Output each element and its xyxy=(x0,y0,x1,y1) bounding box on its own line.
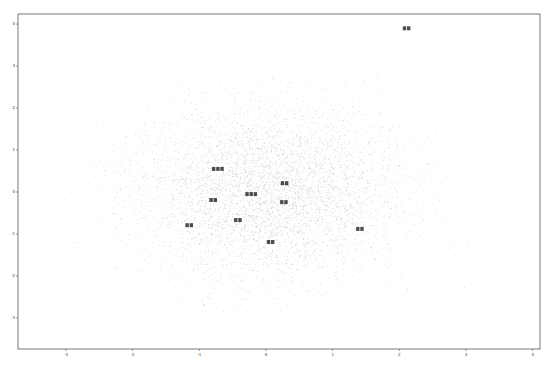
x-tick-label: 3 xyxy=(465,352,468,357)
x-tick-label: -2 xyxy=(131,352,135,357)
x-tick-label: 0 xyxy=(265,352,268,357)
point-label: ??? xyxy=(245,192,257,196)
x-tick-label: -1 xyxy=(197,352,201,357)
y-tick-label: -1 xyxy=(11,231,15,236)
plot-background xyxy=(0,0,549,368)
x-tick-label: 4 xyxy=(531,352,534,357)
y-tick-label: -2 xyxy=(11,273,15,278)
x-tick-label: -3 xyxy=(64,352,68,357)
point-label: ??? xyxy=(212,167,224,171)
x-tick-label: 1 xyxy=(331,352,334,357)
y-tick-label: -3 xyxy=(11,315,15,320)
scatter-chart: ?????????????????????? -3-2-101234 -3-2-… xyxy=(0,0,549,368)
